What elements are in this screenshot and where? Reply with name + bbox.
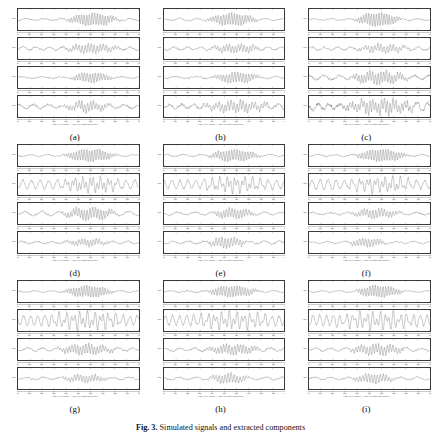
subfigure-label-e: (e) bbox=[215, 268, 225, 278]
x-axis-ticks-1 bbox=[301, 168, 431, 172]
y-axis-label: Amp. bbox=[156, 173, 163, 196]
plot-area-signal-3 bbox=[308, 202, 431, 225]
x-axis-ticks-1 bbox=[301, 304, 431, 308]
subplot-1: Amp. bbox=[301, 8, 431, 31]
x-axis-ticks-3 bbox=[156, 226, 286, 230]
panel-e: Amp.Amp.Amp.Amp.Time in seconds / Time i… bbox=[150, 142, 292, 278]
y-axis-label: Amp. bbox=[301, 8, 308, 31]
panel-c: Amp.Amp.Amp.Amp.Time in seconds / Time i… bbox=[295, 6, 437, 142]
x-axis-ticks-4 bbox=[156, 391, 286, 395]
subfigure-label-f: (f) bbox=[362, 268, 371, 278]
x-axis-ticks-4 bbox=[156, 119, 286, 123]
plot-area-signal-4 bbox=[163, 95, 286, 118]
subplot-3: Amp. bbox=[10, 66, 140, 89]
plot-area-signal-3 bbox=[308, 66, 431, 89]
y-axis-label: Amp. bbox=[10, 309, 17, 332]
panel-h: Amp.Amp.Amp.Amp.Time in seconds / Time i… bbox=[150, 278, 292, 414]
x-axis-ticks-1 bbox=[301, 32, 431, 36]
y-axis-label: Amp. bbox=[10, 8, 17, 31]
x-axis-ticks-4 bbox=[10, 391, 140, 395]
x-axis-ticks-2 bbox=[10, 197, 140, 201]
subplot-2: Amp. bbox=[156, 37, 286, 60]
y-axis-label: Amp. bbox=[156, 309, 163, 332]
subplot-4: Amp. bbox=[301, 367, 431, 390]
x-axis-ticks-2 bbox=[156, 61, 286, 65]
subfigure-label-g: (g) bbox=[70, 404, 81, 414]
y-axis-label: Amp. bbox=[10, 95, 17, 118]
subplot-2: Amp. bbox=[10, 37, 140, 60]
x-axis-ticks-3 bbox=[10, 226, 140, 230]
plot-area-signal-3 bbox=[17, 338, 140, 361]
plot-area-signal-1 bbox=[163, 144, 286, 167]
plot-area-signal-1 bbox=[17, 8, 140, 31]
subplot-1: Amp. bbox=[301, 144, 431, 167]
plot-area-signal-3 bbox=[17, 202, 140, 225]
y-axis-label: Amp. bbox=[301, 173, 308, 196]
panel-d-subplot-stack: Amp.Amp.Amp.Amp.Time in seconds / Time i… bbox=[4, 142, 146, 263]
y-axis-label: Amp. bbox=[10, 231, 17, 254]
plot-area-signal-4 bbox=[308, 95, 431, 118]
plot-area-signal-2 bbox=[17, 37, 140, 60]
y-axis-label: Amp. bbox=[301, 144, 308, 167]
plot-area-signal-2 bbox=[308, 37, 431, 60]
x-axis-ticks-3 bbox=[10, 362, 140, 366]
plot-area-signal-1 bbox=[308, 144, 431, 167]
subfigure-label-i: (i) bbox=[362, 404, 371, 414]
plot-area-signal-4 bbox=[308, 231, 431, 254]
plot-area-signal-3 bbox=[163, 202, 286, 225]
x-axis-ticks-1 bbox=[10, 32, 140, 36]
subplot-2: Amp. bbox=[156, 173, 286, 196]
x-axis-ticks-2 bbox=[10, 61, 140, 65]
y-axis-label: Amp. bbox=[10, 338, 17, 361]
x-axis-ticks-4 bbox=[10, 255, 140, 259]
y-axis-label: Amp. bbox=[301, 231, 308, 254]
panel-b-subplot-stack: Amp.Amp.Amp.Amp.Time in seconds / Time i… bbox=[150, 6, 292, 127]
subplot-3: Amp. bbox=[156, 338, 286, 361]
plot-area-signal-3 bbox=[17, 66, 140, 89]
x-axis-ticks-4 bbox=[156, 255, 286, 259]
x-axis-label: Time in seconds / Time in sampling point… bbox=[301, 124, 431, 127]
subplot-2: Amp. bbox=[301, 309, 431, 332]
plot-area-signal-3 bbox=[163, 338, 286, 361]
subplot-2: Amp. bbox=[156, 309, 286, 332]
panel-grid: Amp.Amp.Amp.Amp.Time in seconds / Time i… bbox=[4, 6, 437, 406]
subplot-1: Amp. bbox=[156, 280, 286, 303]
x-axis-ticks-2 bbox=[10, 333, 140, 337]
x-axis-ticks-1 bbox=[10, 168, 140, 172]
subplot-2: Amp. bbox=[10, 309, 140, 332]
y-axis-label: Amp. bbox=[301, 338, 308, 361]
y-axis-label: Amp. bbox=[156, 280, 163, 303]
x-axis-ticks-1 bbox=[10, 304, 140, 308]
x-axis-ticks-4 bbox=[301, 391, 431, 395]
subplot-4: Amp. bbox=[10, 231, 140, 254]
x-axis-label: Time in seconds / Time in sampling point… bbox=[156, 396, 286, 399]
y-axis-label: Amp. bbox=[10, 37, 17, 60]
subplot-1: Amp. bbox=[10, 8, 140, 31]
y-axis-label: Amp. bbox=[10, 66, 17, 89]
x-axis-ticks-1 bbox=[156, 168, 286, 172]
subplot-4: Amp. bbox=[10, 95, 140, 118]
panel-a: Amp.Amp.Amp.Amp.Time in seconds / Time i… bbox=[4, 6, 146, 142]
y-axis-label: Amp. bbox=[301, 66, 308, 89]
panel-g: Amp.Amp.Amp.Amp.Time in seconds / Time i… bbox=[4, 278, 146, 414]
plot-area-signal-1 bbox=[17, 144, 140, 167]
x-axis-ticks-3 bbox=[301, 226, 431, 230]
plot-area-signal-4 bbox=[17, 95, 140, 118]
x-axis-ticks-2 bbox=[301, 333, 431, 337]
plot-area-signal-2 bbox=[163, 309, 286, 332]
figure-caption: Fig. 3. Simulated signals and extracted … bbox=[0, 423, 441, 433]
panel-g-subplot-stack: Amp.Amp.Amp.Amp.Time in seconds / Time i… bbox=[4, 278, 146, 399]
y-axis-label: Amp. bbox=[156, 37, 163, 60]
y-axis-label: Amp. bbox=[10, 173, 17, 196]
x-axis-label: Time in seconds / Time in sampling point… bbox=[156, 260, 286, 263]
figure-caption-text: Simulated signals and extracted componen… bbox=[160, 423, 306, 432]
x-axis-ticks-2 bbox=[156, 333, 286, 337]
x-axis-ticks-1 bbox=[156, 304, 286, 308]
x-axis-label: Time in seconds / Time in sampling point… bbox=[10, 396, 140, 399]
subplot-1: Amp. bbox=[10, 280, 140, 303]
panel-f-subplot-stack: Amp.Amp.Amp.Amp.Time in seconds / Time i… bbox=[295, 142, 437, 263]
panel-h-subplot-stack: Amp.Amp.Amp.Amp.Time in seconds / Time i… bbox=[150, 278, 292, 399]
subplot-4: Amp. bbox=[301, 231, 431, 254]
y-axis-label: Amp. bbox=[10, 280, 17, 303]
